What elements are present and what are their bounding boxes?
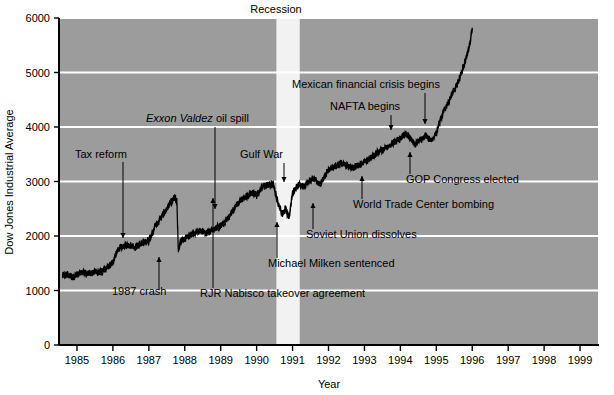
y-tick-label: 1000 — [26, 285, 50, 297]
recession-label: Recession — [250, 3, 301, 15]
y-tick-label: 0 — [44, 339, 50, 351]
x-tick-label: 1999 — [568, 354, 592, 366]
x-tick-label: 1993 — [352, 354, 376, 366]
annotation-label: Soviet Union dissolves — [306, 228, 417, 240]
x-tick-label: 1995 — [424, 354, 448, 366]
annotation-label: NAFTA begins — [330, 100, 401, 112]
annotation-label: 1987 crash — [112, 285, 166, 297]
x-tick-label: 1996 — [460, 354, 484, 366]
x-tick-label: 1998 — [532, 354, 556, 366]
y-axis-title: Dow Jones Industrial Average — [3, 109, 15, 254]
y-tick-label: 3000 — [26, 176, 50, 188]
x-tick-label: 1991 — [280, 354, 304, 366]
x-tick-label: 1988 — [173, 354, 197, 366]
x-axis-ticks: 1985198619871988198919901991199219931994… — [65, 345, 593, 366]
y-axis-ticks: 0100020003000400050006000 — [26, 12, 59, 351]
y-tick-label: 6000 — [26, 12, 50, 24]
x-tick-label: 1987 — [137, 354, 161, 366]
x-tick-label: 1990 — [244, 354, 268, 366]
annotation-label-rest: oil spill — [213, 112, 249, 124]
chart-canvas: Tax reformExxon Valdez oil spillGulf War… — [0, 0, 614, 395]
annotation-label-italic: Exxon Valdez — [146, 112, 213, 124]
x-tick-label: 1989 — [208, 354, 232, 366]
annotation-label: GOP Congress elected — [406, 173, 519, 185]
annotation-label: Exxon Valdez oil spill — [146, 112, 249, 124]
annotation-label: Michael Milken sentenced — [268, 257, 395, 269]
annotation-label: Tax reform — [75, 148, 127, 160]
x-tick-label: 1994 — [388, 354, 412, 366]
x-tick-label: 1997 — [496, 354, 520, 366]
x-tick-label: 1985 — [65, 354, 89, 366]
x-tick-label: 1992 — [316, 354, 340, 366]
annotation-label: Gulf War — [240, 148, 283, 160]
y-tick-label: 2000 — [26, 230, 50, 242]
x-tick-label: 1986 — [101, 354, 125, 366]
y-tick-label: 5000 — [26, 67, 50, 79]
y-tick-label: 4000 — [26, 121, 50, 133]
annotation-label: World Trade Center bombing — [353, 198, 494, 210]
dow-jones-chart-figure: Tax reformExxon Valdez oil spillGulf War… — [0, 0, 614, 395]
annotation-label: RJR Nabisco takeover agreement — [200, 287, 365, 299]
x-axis-title: Year — [318, 378, 341, 390]
annotation-label: Mexican financial crisis begins — [292, 78, 440, 90]
